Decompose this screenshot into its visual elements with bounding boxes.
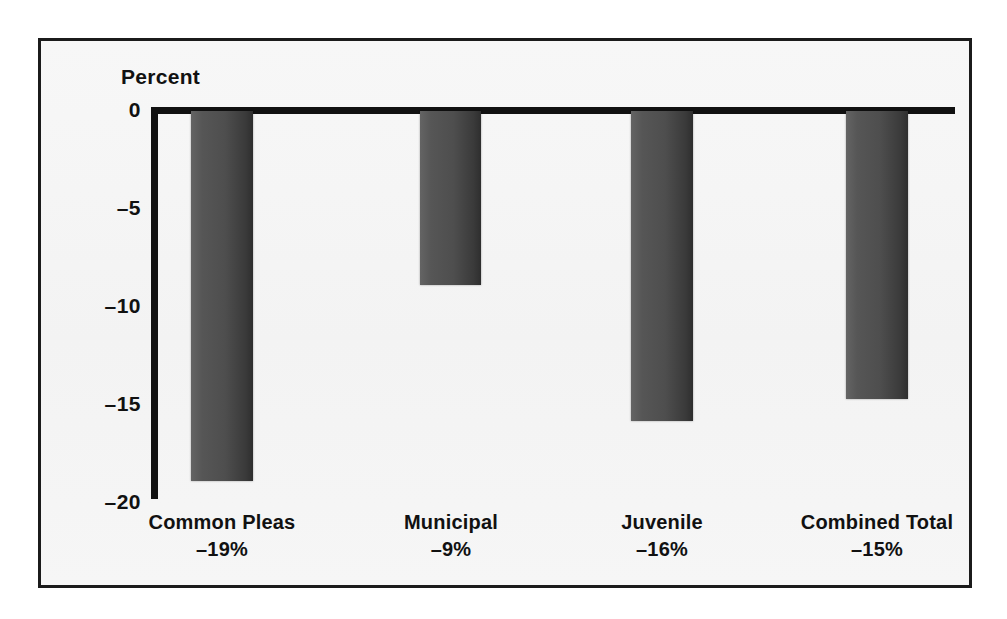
y-tick--15: –15	[45, 392, 141, 416]
category-name: Municipal	[351, 511, 551, 534]
category-label-common-pleas: Common Pleas –19%	[122, 511, 322, 561]
y-axis-line	[151, 107, 158, 499]
bar-municipal	[420, 111, 481, 285]
figure-frame: Percent 0 –5 –10 –15 –20 Common Pleas –1…	[38, 38, 972, 588]
y-tick--10: –10	[45, 294, 141, 318]
bar-combined-total	[846, 111, 908, 399]
plot-surface	[41, 41, 969, 585]
zero-baseline-axis	[151, 107, 955, 114]
y-axis-tick-group: 0 –5 –10 –15 –20	[41, 41, 141, 585]
category-name: Common Pleas	[122, 511, 322, 534]
y-tick-0: 0	[45, 98, 141, 122]
category-name: Juvenile	[562, 511, 762, 534]
bar-juvenile	[631, 111, 693, 421]
chart-page: Percent 0 –5 –10 –15 –20 Common Pleas –1…	[0, 0, 1007, 619]
category-label-juvenile: Juvenile –16%	[562, 511, 762, 561]
category-name: Combined Total	[777, 511, 977, 534]
category-value: –9%	[351, 538, 551, 561]
bar-common-pleas	[191, 111, 253, 481]
category-label-combined-total: Combined Total –15%	[777, 511, 977, 561]
category-value: –19%	[122, 538, 322, 561]
y-tick--5: –5	[45, 196, 141, 220]
category-label-municipal: Municipal –9%	[351, 511, 551, 561]
category-value: –15%	[777, 538, 977, 561]
category-value: –16%	[562, 538, 762, 561]
